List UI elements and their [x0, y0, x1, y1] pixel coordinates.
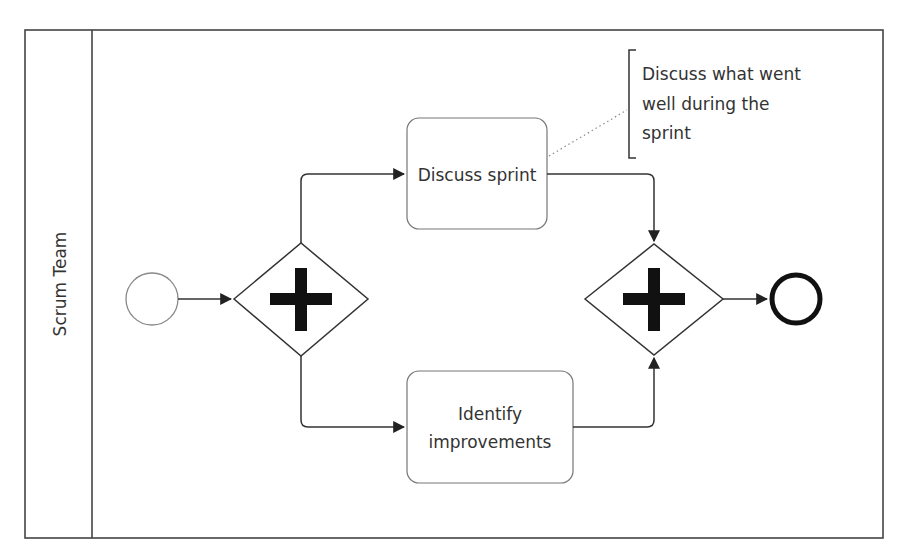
sequence-flow-split-to-discuss[interactable] — [301, 174, 404, 243]
end-event[interactable] — [772, 275, 820, 323]
sequence-flow-identify-to-join[interactable] — [573, 358, 654, 427]
annotation-bracket — [629, 50, 636, 158]
annotation-line3: sprint — [642, 123, 691, 143]
annotation-line2: well during the — [642, 94, 769, 114]
text-annotation[interactable]: Discuss what went well during the sprint — [629, 50, 801, 158]
task-discuss-sprint[interactable]: Discuss sprint — [407, 118, 547, 229]
task-label: Discuss sprint — [418, 165, 537, 185]
sequence-flow-discuss-to-join[interactable] — [547, 174, 654, 241]
start-event[interactable] — [126, 273, 178, 325]
sequence-flow-split-to-identify[interactable] — [301, 356, 404, 427]
join-gateway[interactable] — [585, 244, 723, 355]
lane-label[interactable]: Scrum Team — [50, 232, 70, 337]
task-label-line1: Identify — [458, 404, 522, 424]
bpmn-diagram: Scrum Team Discuss sprint Identify impro… — [0, 0, 905, 556]
split-gateway[interactable] — [234, 243, 368, 356]
task-identify-improvements[interactable]: Identify improvements — [407, 371, 573, 483]
annotation-association[interactable] — [549, 110, 627, 156]
annotation-line1: Discuss what went — [642, 64, 801, 84]
task-label-line2: improvements — [429, 432, 552, 452]
